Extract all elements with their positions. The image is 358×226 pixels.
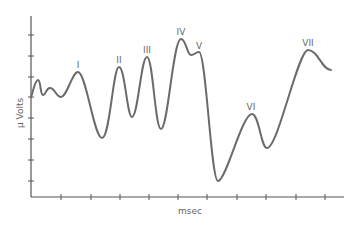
peak-label-vii: VII: [302, 38, 313, 48]
y-axis-label: μ Volts: [15, 97, 25, 128]
peak-label-ii: II: [116, 55, 121, 65]
abr-waveform-chart: I II III IV V VI VII msec μ Volts: [0, 0, 358, 226]
peak-label-iii: III: [143, 45, 151, 55]
peak-label-v: V: [196, 41, 203, 51]
peak-label-vi: VI: [247, 102, 256, 112]
peak-label-i: I: [77, 60, 80, 70]
x-axis-label: msec: [178, 206, 202, 216]
peak-label-iv: IV: [177, 27, 187, 37]
